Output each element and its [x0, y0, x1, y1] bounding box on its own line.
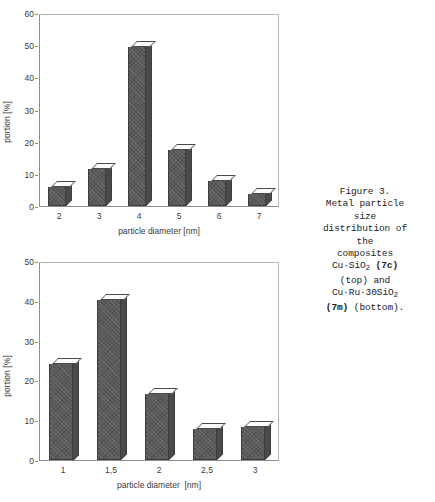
bar: [241, 427, 265, 460]
formula-subscript: 2: [394, 291, 398, 299]
bar-slot: [145, 263, 175, 460]
bar-side-face: [73, 358, 79, 461]
bar-slot: [248, 15, 273, 206]
caption-line: Metal particle: [300, 198, 430, 210]
y-tick-label: 50: [25, 41, 34, 51]
caption-line: distribution of: [300, 223, 430, 235]
bar: [88, 169, 107, 206]
bar: [193, 429, 217, 460]
bar: [248, 194, 267, 206]
y-tick-label: 20: [25, 138, 34, 148]
bar: [128, 47, 147, 206]
caption-formula-bottom: Cu·Ru·30SiO2: [300, 287, 430, 301]
bar: [145, 394, 169, 460]
y-axis-title-top: portion [%]: [0, 4, 14, 240]
x-tick-label: 7: [257, 211, 262, 221]
plot-area-top: [39, 14, 279, 207]
bar-slot: [241, 263, 271, 460]
bar-slot: [49, 263, 79, 460]
y-tick-label: 60: [25, 9, 34, 19]
bar-slot: [193, 263, 223, 460]
y-axis-ticks-bottom: 01020304050: [14, 262, 38, 461]
x-tick-label: 3: [253, 465, 258, 475]
formula-subscript: 2: [366, 264, 370, 272]
x-tick-label: 2: [57, 211, 62, 221]
x-tick-label: 5: [177, 211, 182, 221]
x-tick-label: 4: [137, 211, 142, 221]
sample-tag: (7c): [376, 260, 398, 271]
caption-text: (bottom).: [354, 302, 404, 313]
bar-slot: [128, 15, 153, 206]
y-tick-label: 30: [25, 106, 34, 116]
y-tick-label: 0: [29, 456, 34, 466]
bar: [97, 300, 121, 460]
y-tick-label: 50: [25, 257, 34, 267]
caption-line: composites: [300, 248, 430, 260]
bar-side-face: [146, 41, 152, 206]
x-axis-title-top: particle diameter [nm]: [39, 226, 279, 236]
y-tick-label: 40: [25, 73, 34, 83]
formula-text: Cu·SiO: [332, 260, 366, 271]
plot-area-bottom: [39, 262, 279, 461]
y-tick-label: 40: [25, 297, 34, 307]
x-tick-label: 3: [97, 211, 102, 221]
x-axis-title-bottom: particle diameter [nm]: [39, 480, 279, 490]
bar: [208, 181, 227, 206]
y-tick-label: 30: [25, 337, 34, 347]
caption-line: the: [300, 236, 430, 248]
caption-line: Figure 3.: [300, 186, 430, 198]
formula-text: Cu·Ru·30SiO: [332, 287, 394, 298]
bar: [48, 187, 67, 206]
sample-tag: (7m): [326, 302, 348, 313]
bar-slot: [48, 15, 73, 206]
bar-side-face: [121, 294, 127, 460]
x-tick-label: 1: [61, 465, 66, 475]
y-tick-label: 0: [29, 202, 34, 212]
x-tick-label: 6: [217, 211, 222, 221]
y-tick-label: 20: [25, 376, 34, 386]
bar: [49, 364, 73, 461]
bar-side-face: [186, 144, 192, 206]
bar-side-face: [106, 163, 112, 206]
caption-line: (top) and: [300, 275, 430, 287]
figure-caption: Figure 3. Metal particle size distributi…: [300, 186, 430, 314]
bar-side-face: [169, 388, 175, 460]
caption-line-bottom: (7m) (bottom).: [300, 302, 430, 314]
y-axis-ticks-top: 0102030405060: [14, 14, 38, 207]
bar-slot: [208, 15, 233, 206]
y-tick-label: 10: [25, 170, 34, 180]
bar-slot: [97, 263, 127, 460]
bar-slot: [88, 15, 113, 206]
x-tick-label: 1,5: [105, 465, 117, 475]
caption-formula-top: Cu·SiO2 (7c): [300, 260, 430, 274]
figure-column: portion [%] 0102030405060 234567 particl…: [0, 0, 292, 502]
y-axis-title-bottom: portion [%]: [0, 250, 14, 502]
chart-bottom: portion [%] 01020304050 11,522,53 partic…: [0, 250, 292, 502]
bar: [168, 150, 187, 206]
bar-slot: [168, 15, 193, 206]
x-tick-label: 2,5: [201, 465, 213, 475]
x-tick-label: 2: [157, 465, 162, 475]
chart-top: portion [%] 0102030405060 234567 particl…: [0, 4, 292, 240]
bar-series-bottom: [40, 263, 278, 460]
y-tick-label: 10: [25, 416, 34, 426]
bar-series-top: [40, 15, 278, 206]
caption-line: size: [300, 211, 430, 223]
bar-side-face: [265, 421, 271, 460]
